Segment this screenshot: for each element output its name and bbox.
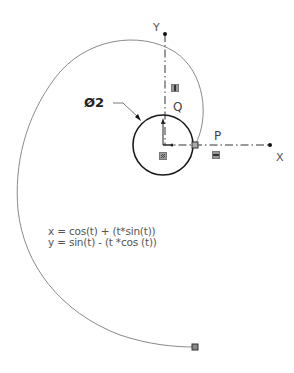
diameter-dimension-label[interactable]: Ø2 — [84, 97, 104, 109]
origin-x-dot — [171, 144, 174, 147]
x-axis-endpoint[interactable] — [268, 143, 272, 147]
y-axis-endpoint[interactable] — [163, 32, 167, 36]
fixed-relation-icon[interactable] — [159, 152, 167, 160]
point-q-label: Q — [173, 101, 182, 113]
origin-y-arrowhead — [161, 118, 165, 124]
sketch-canvas — [0, 0, 294, 373]
horizontal-relation-icon[interactable] — [212, 151, 220, 159]
vertical-relation-icon[interactable] — [171, 84, 179, 92]
point-p-label: P — [214, 130, 221, 142]
dimension-leader — [113, 103, 139, 118]
equation-y: y = sin(t) - (t *cos (t)) — [48, 237, 157, 248]
y-axis-label: Y — [153, 22, 160, 34]
point-p-marker[interactable] — [192, 142, 198, 148]
curve-endpoint-marker[interactable] — [192, 344, 198, 350]
x-axis-label: X — [276, 152, 284, 164]
